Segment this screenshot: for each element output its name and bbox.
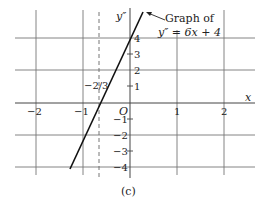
x-tick-label: 1 <box>174 106 180 117</box>
y-tick-label: 1 <box>134 81 140 92</box>
dashed-line-label: −2/3 <box>84 80 108 91</box>
annotation-line2: y″ = 6x + 4 <box>157 26 221 39</box>
x-tick-label: −1 <box>74 106 89 117</box>
y-tick-label: 4 <box>134 33 140 44</box>
y-tick-label: 2 <box>134 65 140 76</box>
y-tick-label: −3 <box>113 146 128 157</box>
x-axis-label: x <box>245 91 252 104</box>
figure-caption: (c) <box>121 185 136 198</box>
y-tick-label: −4 <box>113 162 128 173</box>
y-tick-label: −2 <box>113 130 128 141</box>
x-tick-label: −2 <box>27 106 42 117</box>
y-tick-label: 3 <box>134 49 140 60</box>
y-tick-label: −1 <box>113 114 128 125</box>
annotation-line1: Graph of <box>165 12 215 25</box>
chart-figure: Graph of y″ = 6x + 4 y″ x O −2/3 −2 −1 1… <box>0 0 265 208</box>
x-tick-label: 2 <box>221 106 227 117</box>
annotation-arrow <box>146 12 165 20</box>
y-axis-label: y″ <box>115 10 127 23</box>
